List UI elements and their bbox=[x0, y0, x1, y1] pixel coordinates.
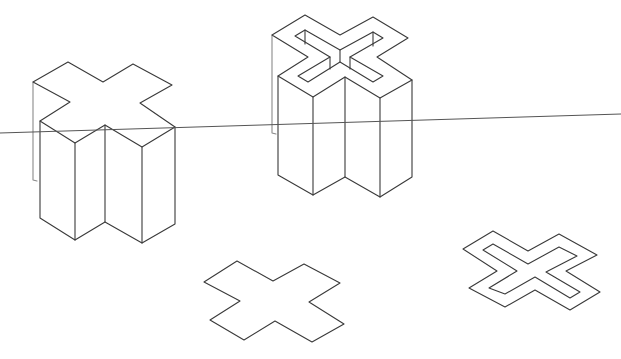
flat-hollow-cross-outer bbox=[463, 231, 600, 310]
hollow-cross-outer-top bbox=[272, 15, 412, 98]
hollow-cross-prism bbox=[272, 15, 412, 197]
solid-cross-top-face bbox=[33, 62, 175, 147]
solid-cross-prism bbox=[33, 62, 175, 243]
ground-line bbox=[0, 114, 621, 133]
flat-cross-shape bbox=[204, 261, 344, 342]
diagram-canvas bbox=[0, 0, 621, 359]
flat-hollow-cross-outline bbox=[463, 231, 600, 310]
flat-cross-outline bbox=[204, 261, 344, 342]
hollow-cross-back-edge bbox=[272, 35, 276, 134]
hollow-cross-inner-top bbox=[295, 30, 383, 82]
